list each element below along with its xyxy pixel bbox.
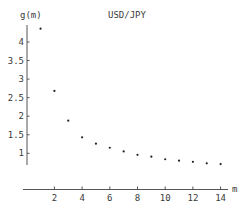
data-point — [220, 163, 222, 165]
y-axis-label: g(m) — [20, 10, 42, 20]
data-point — [39, 28, 41, 30]
data-point — [109, 147, 111, 149]
x-axis-label: m — [232, 184, 237, 194]
x-tick-label: 4 — [79, 193, 84, 203]
x-tick-label: 6 — [107, 193, 112, 203]
x-tick-label: 10 — [160, 193, 171, 203]
data-point — [150, 156, 152, 158]
y-tick-label: 2 — [19, 111, 24, 121]
data-points — [39, 28, 221, 166]
x-tick-label: 14 — [215, 193, 226, 203]
y-tick-label: 3 — [19, 74, 24, 84]
y-tick-label: 3.5 — [8, 56, 24, 66]
y-tick-label: 4 — [19, 37, 24, 47]
data-point — [192, 161, 194, 163]
data-point — [53, 90, 55, 92]
chart-title: USD/JPY — [108, 10, 147, 20]
y-tick-label: 1 — [19, 148, 24, 158]
y-tick-label: 1.5 — [8, 130, 24, 140]
axes: 11.522.533.542468101214 — [8, 25, 228, 203]
scatter-plot: 11.522.533.542468101214 USD/JPY g(m) m — [0, 0, 243, 222]
data-point — [206, 162, 208, 164]
y-tick-label: 2.5 — [8, 93, 24, 103]
data-point — [95, 143, 97, 145]
data-point — [164, 158, 166, 160]
data-point — [136, 154, 138, 156]
x-tick-label: 8 — [135, 193, 140, 203]
data-point — [123, 150, 125, 152]
data-point — [81, 136, 83, 138]
data-point — [178, 160, 180, 162]
x-tick-label: 2 — [52, 193, 57, 203]
x-tick-label: 12 — [187, 193, 198, 203]
data-point — [67, 120, 69, 122]
chart-container: 11.522.533.542468101214 USD/JPY g(m) m — [0, 0, 243, 222]
